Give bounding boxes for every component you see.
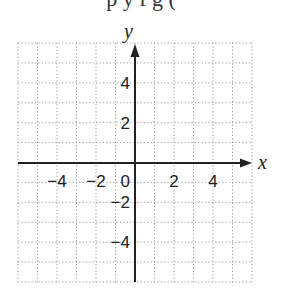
y-tick-label: 4 — [121, 74, 130, 93]
axes: x y — [18, 20, 267, 282]
x-tick-label: 4 — [208, 172, 217, 191]
y-tick-label: 2 — [121, 114, 130, 133]
x-axis-arrow-icon — [240, 159, 252, 168]
x-tick-label: 2 — [169, 172, 178, 191]
y-axis-arrow-icon — [131, 44, 140, 57]
coordinate-plane: x y −4−202442−2−4 — [0, 0, 282, 295]
x-tick-label: 0 — [121, 172, 130, 191]
y-tick-label: −2 — [111, 193, 130, 212]
y-axis-label: y — [122, 20, 133, 43]
x-tick-label: −4 — [47, 172, 66, 191]
x-tick-label: −2 — [86, 172, 105, 191]
y-tick-label: −4 — [111, 233, 130, 252]
x-axis-label: x — [257, 151, 267, 173]
